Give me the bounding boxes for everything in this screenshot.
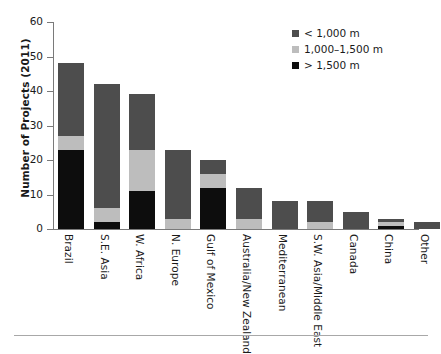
bar-segment[interactable] (200, 160, 226, 174)
y-axis-tick-label: 0 (18, 222, 43, 234)
legend-label: 1,000–1,500 m (304, 43, 383, 55)
legend: < 1,000 m1,000–1,500 m> 1,500 m (292, 26, 383, 74)
bar-segment[interactable] (236, 188, 262, 219)
bar-stack[interactable] (58, 63, 84, 229)
bar-segment[interactable] (58, 150, 84, 229)
bar-segment[interactable] (272, 201, 298, 229)
x-axis-label: N. Europe (170, 234, 182, 286)
bar-stack[interactable] (94, 84, 120, 229)
x-axis-label: S.W. Asia/Middle East (312, 234, 324, 347)
bar-stack[interactable] (307, 201, 333, 229)
bar-segment[interactable] (307, 222, 333, 229)
bar-stack[interactable] (343, 212, 369, 229)
legend-swatch-icon (292, 30, 299, 37)
y-axis-tick-label: 30 (18, 119, 43, 131)
bar-segment[interactable] (58, 63, 84, 135)
bar-stack[interactable] (236, 188, 262, 229)
bar-stack[interactable] (165, 150, 191, 229)
legend-swatch-icon (292, 62, 299, 69)
bar-segment[interactable] (58, 136, 84, 150)
bar-segment[interactable] (129, 150, 155, 191)
bar-segment[interactable] (165, 219, 191, 229)
legend-item[interactable]: 1,000–1,500 m (292, 42, 383, 56)
bar-stack[interactable] (200, 160, 226, 229)
x-axis-label: Brazil (63, 234, 75, 264)
bar-segment[interactable] (129, 94, 155, 149)
y-axis-tick-mark (47, 229, 53, 230)
x-axis-label: Mediterranean (277, 234, 289, 311)
y-axis-tick-label: 50 (18, 50, 43, 62)
x-axis-label: China (383, 234, 395, 264)
bar-stack[interactable] (414, 222, 440, 229)
y-axis-tick-label: 10 (18, 188, 43, 200)
bar-segment[interactable] (414, 222, 440, 229)
bar-stack[interactable] (378, 219, 404, 229)
legend-item[interactable]: > 1,500 m (292, 58, 383, 72)
bar-segment[interactable] (94, 84, 120, 208)
y-axis-tick-label: 20 (18, 153, 43, 165)
x-axis-label: S.E. Asia (99, 234, 111, 280)
bar-segment[interactable] (129, 191, 155, 229)
legend-label: < 1,000 m (304, 27, 360, 39)
legend-swatch-icon (292, 46, 299, 53)
bar-segment[interactable] (343, 212, 369, 229)
bar-segment[interactable] (94, 222, 120, 229)
bar-segment[interactable] (236, 219, 262, 229)
y-axis-tick-label: 40 (18, 84, 43, 96)
x-axis-label: W. Africa (134, 234, 146, 280)
x-axis-label: Australia/New Zealand (241, 234, 253, 354)
bottom-rule-divider (14, 335, 428, 336)
x-axis-label: Canada (348, 234, 360, 274)
x-axis-label: Other (419, 234, 431, 264)
bar-segment[interactable] (200, 188, 226, 229)
x-axis-line (47, 229, 419, 230)
bar-segment[interactable] (94, 208, 120, 222)
legend-label: > 1,500 m (304, 59, 360, 71)
bar-segment[interactable] (200, 174, 226, 188)
bar-segment[interactable] (307, 201, 333, 222)
x-axis-label: Gulf of Mexico (205, 234, 217, 310)
bar-stack[interactable] (129, 94, 155, 229)
bar-stack[interactable] (272, 201, 298, 229)
bar-segment[interactable] (165, 150, 191, 219)
y-axis-tick-label: 60 (18, 15, 43, 27)
bar-segment[interactable] (378, 226, 404, 229)
legend-item[interactable]: < 1,000 m (292, 26, 383, 40)
